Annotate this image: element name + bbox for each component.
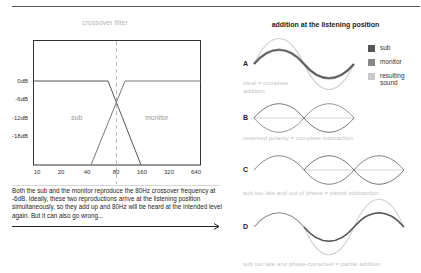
x-tick-10: 10 (27, 169, 47, 175)
legend-sub-label: sub (380, 44, 390, 51)
scenario-c-label: C (243, 166, 248, 173)
y-tick-minus12db: -12dB (0, 115, 28, 121)
crossover-filter-title: crossover filter (0, 19, 210, 26)
x-tick-20: 20 (51, 169, 71, 175)
wave-d (254, 199, 404, 255)
legend-resulting-sound: resulting sound (368, 72, 416, 86)
monitor-curve (91, 81, 201, 165)
y-tick-minus18db: -18dB (0, 133, 28, 139)
legend-resulting-label: resulting sound (380, 72, 416, 86)
scenario-c-caption: sub too late and out of phase = partial … (243, 189, 379, 197)
legend-monitor-label: monitor (380, 58, 402, 65)
sub-curve (34, 81, 142, 165)
scenario-d-caption: sub too late and phase-corrected = parti… (243, 260, 381, 268)
legend-resulting-swatch (368, 73, 375, 80)
x-tick-160: 160 (132, 169, 152, 175)
monitor-region-label: monitor (145, 114, 168, 121)
legend-sub: sub (368, 44, 390, 52)
diagram-graphics (0, 0, 421, 273)
x-tick-320: 320 (159, 169, 179, 175)
y-tick-0db: 0dB (0, 78, 28, 84)
wave-c (254, 156, 404, 185)
scenario-a-caption: ideal = complete addition (243, 79, 293, 94)
addition-title: addition at the listening position (230, 21, 421, 28)
legend-monitor: monitor (368, 58, 402, 66)
scenario-d-label: D (243, 223, 248, 230)
scenario-b-label: B (243, 114, 248, 121)
x-tick-40: 40 (77, 169, 97, 175)
x-tick-80: 80 (106, 169, 126, 175)
wave-b (254, 104, 354, 133)
scenario-a-label: A (243, 60, 248, 67)
explanation-paragraph: Both the sub and the monitor reproduce t… (12, 187, 227, 220)
legend-sub-swatch (368, 45, 375, 52)
legend-monitor-swatch (368, 59, 375, 66)
x-tick-640: 640 (186, 169, 206, 175)
scenario-b-caption: reversed polarity = complete subtraction (243, 134, 353, 142)
y-tick-minus6db: -6dB (0, 96, 28, 102)
sub-region-label: sub (71, 114, 82, 121)
